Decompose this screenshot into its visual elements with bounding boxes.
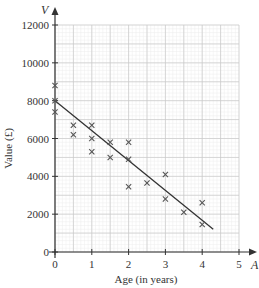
x-axis-title: Age (in years): [115, 273, 178, 286]
y-tick-label: 10000: [22, 57, 50, 69]
x-axis-letter: A: [250, 258, 259, 272]
y-tick-label: 6000: [27, 133, 50, 145]
axes: [49, 7, 257, 258]
y-tick-label: 0: [44, 246, 50, 258]
x-tick-label: 1: [89, 258, 95, 270]
tick-marks: [52, 25, 239, 255]
y-tick-label: 8000: [27, 95, 50, 107]
y-tick-label: 2000: [27, 208, 50, 220]
x-tick-label: 0: [52, 258, 58, 270]
y-tick-label: 12000: [22, 19, 50, 31]
x-tick-label: 5: [236, 258, 242, 270]
x-tick-label: 4: [199, 258, 205, 270]
scatter-chart: 012345020004000600080001000012000 A V Ag…: [0, 0, 259, 288]
y-tick-label: 4000: [27, 170, 50, 182]
y-axis-title: Value (£): [2, 128, 15, 169]
x-tick-label: 2: [126, 258, 132, 270]
x-axis-arrow-icon: [249, 249, 257, 256]
y-axis-letter: V: [41, 3, 50, 17]
y-axis-arrow-icon: [52, 7, 59, 15]
x-tick-label: 3: [163, 258, 169, 270]
